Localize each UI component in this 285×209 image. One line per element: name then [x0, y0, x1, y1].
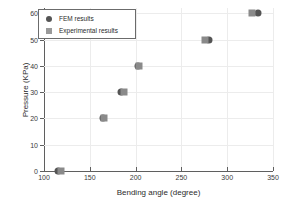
data-point-experimental [101, 115, 108, 122]
square-marker-icon [46, 28, 52, 34]
circle-marker-icon [46, 16, 52, 22]
y-tick-label: 40 [30, 62, 38, 69]
gridline-horizontal [44, 145, 273, 146]
legend: FEM results Experimental results [38, 9, 136, 39]
legend-item-fem: FEM results [43, 13, 131, 24]
data-point-experimental [248, 10, 255, 17]
data-point-experimental [136, 62, 143, 69]
y-tick-label: 20 [30, 115, 38, 122]
x-tick [136, 167, 137, 171]
x-tick [273, 167, 274, 171]
y-tick [40, 171, 44, 172]
y-tick-label: 10 [30, 141, 38, 148]
x-tick [181, 167, 182, 171]
gridline-horizontal [44, 92, 273, 93]
y-tick-label: 60 [30, 10, 38, 17]
x-axis-line [44, 171, 273, 172]
y-tick [40, 40, 44, 41]
x-tick-label: 150 [84, 174, 96, 181]
data-point-fem [255, 10, 262, 17]
x-tick [90, 167, 91, 171]
data-point-experimental [202, 36, 209, 43]
legend-label: Experimental results [59, 27, 118, 34]
gridline-vertical [227, 8, 228, 171]
x-tick-label: 350 [267, 174, 279, 181]
data-point-experimental [120, 89, 127, 96]
x-tick-label: 100 [38, 174, 50, 181]
y-axis-title: Pressure (KPa) [21, 30, 30, 150]
x-tick [44, 167, 45, 171]
scatter-chart: 1001502002503003500102030405060 Pressure… [0, 0, 285, 209]
y-tick [40, 66, 44, 67]
x-tick-label: 200 [130, 174, 142, 181]
gridline-horizontal [44, 118, 273, 119]
legend-label: FEM results [59, 15, 94, 22]
y-tick-label: 30 [30, 89, 38, 96]
x-axis-title: Bending angle (degree) [44, 188, 273, 197]
gridline-horizontal [44, 40, 273, 41]
y-tick [40, 145, 44, 146]
gridline-horizontal [44, 66, 273, 67]
x-tick-label: 250 [176, 174, 188, 181]
x-tick [227, 167, 228, 171]
x-tick-label: 300 [221, 174, 233, 181]
gridline-vertical [181, 8, 182, 171]
y-tick [40, 92, 44, 93]
y-tick-label: 50 [30, 36, 38, 43]
data-point-experimental [58, 168, 65, 175]
y-tick-label: 0 [34, 168, 38, 175]
y-axis-title-wrap: Pressure (KPa) [9, 8, 21, 171]
legend-item-experimental: Experimental results [43, 25, 131, 36]
y-tick [40, 118, 44, 119]
gridline-vertical [273, 8, 274, 171]
